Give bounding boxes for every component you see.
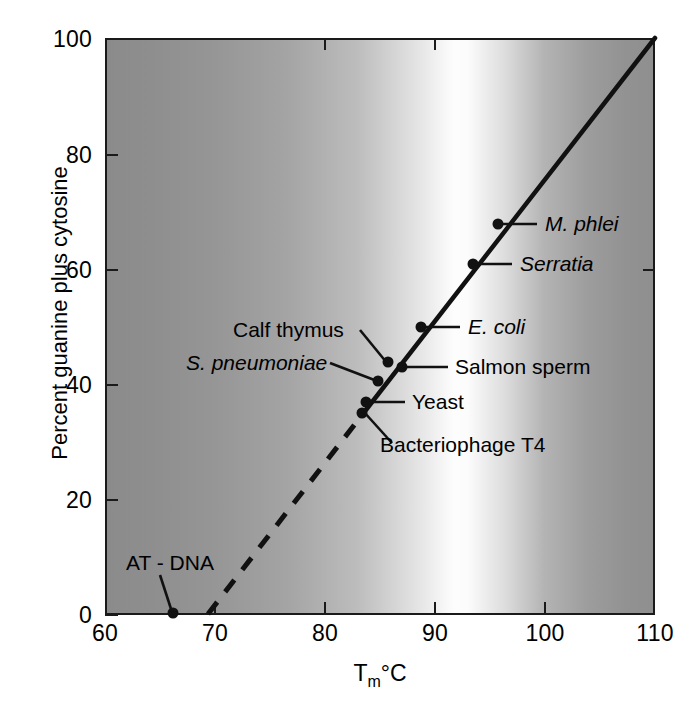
x-tick-label-60: 60 xyxy=(70,620,140,647)
annotation-s-pneumoniae: S. pneumoniae xyxy=(186,352,327,373)
x-tick-90 xyxy=(434,602,436,615)
y-tick-20 xyxy=(105,499,118,501)
annotation-at-dna: AT - DNA xyxy=(126,552,214,573)
annotation-bacteriophage-t4: Bacteriophage T4 xyxy=(380,434,545,455)
x-axis-label-main: T xyxy=(353,660,367,686)
x-tick-80 xyxy=(324,602,326,615)
annotation-e-coli: E. coli xyxy=(468,316,525,337)
annotation-serratia: Serratia xyxy=(520,253,594,274)
x-tick-label-90: 90 xyxy=(400,620,470,647)
y-tick-right-60 xyxy=(643,269,655,271)
y-tick-80 xyxy=(105,154,118,156)
x-tick-label-100: 100 xyxy=(510,620,580,647)
x-axis-label-sub: m xyxy=(367,673,380,690)
x-tick-70 xyxy=(214,602,216,615)
annotation-m-phlei: M. phlei xyxy=(545,213,619,234)
y-tick-60 xyxy=(105,269,118,271)
x-axis-label: Tm°C xyxy=(280,660,480,691)
x-tick-label-70: 70 xyxy=(180,620,250,647)
x-tick-100 xyxy=(544,602,546,615)
x-axis-label-tail: °C xyxy=(381,660,407,686)
y-axis-label: Percent guanine plus cytosine xyxy=(47,148,73,478)
y-tick-label-100: 100 xyxy=(22,26,92,53)
annotation-salmon-sperm: Salmon sperm xyxy=(455,356,590,377)
figure-gc-vs-tm: 100 80 60 40 20 0 60 70 80 90 100 110 Pe… xyxy=(0,0,695,709)
y-tick-0 xyxy=(105,614,118,616)
x-tick-label-110: 110 xyxy=(620,620,690,647)
x-tick-label-80: 80 xyxy=(290,620,360,647)
annotation-calf-thymus: Calf thymus xyxy=(233,319,344,340)
annotation-yeast: Yeast xyxy=(412,391,464,412)
x-tick-top-90 xyxy=(434,38,436,50)
x-tick-top-80 xyxy=(324,38,326,50)
plot-background-gradient xyxy=(107,40,653,613)
y-tick-40 xyxy=(105,384,118,386)
y-tick-label-20: 20 xyxy=(22,487,92,514)
plot-area xyxy=(105,38,655,615)
